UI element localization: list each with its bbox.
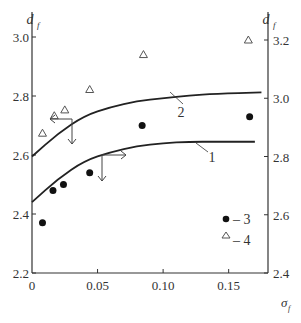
data-point-series-4: [139, 51, 147, 58]
left-y-axis-label-sub: f: [37, 20, 41, 30]
curve-1-label: 1: [209, 150, 216, 165]
left-y-tick-label: 2.2: [13, 266, 29, 281]
data-point-series-3: [49, 187, 56, 194]
curve-1: [32, 142, 255, 202]
legend-label-series-3: – 3: [232, 212, 251, 227]
curve-2: [32, 92, 261, 156]
legend-marker-series-4: [222, 232, 230, 238]
chart: dfdfσf00.050.100.152.22.42.62.83.02.42.6…: [0, 0, 301, 323]
x-axis-label: σ: [281, 295, 288, 310]
data-point-series-3: [39, 219, 46, 226]
legend-marker-series-3: [223, 216, 230, 223]
left-y-tick-label: 2.8: [13, 89, 29, 104]
right-y-axis-label-sub: f: [273, 20, 277, 30]
x-tick-label: 0.15: [217, 278, 240, 293]
data-point-series-4: [38, 129, 46, 136]
left-y-tick-label: 2.6: [13, 148, 30, 163]
data-point-series-4: [244, 36, 252, 43]
data-point-series-3: [246, 113, 253, 120]
right-y-tick-label: 3.2: [273, 33, 289, 48]
right-y-tick-label: 2.8: [273, 150, 289, 165]
legend-label-series-4: – 4: [232, 233, 251, 248]
data-point-series-4: [61, 106, 69, 113]
x-tick-label: 0.05: [86, 278, 109, 293]
left-y-axis-label: d: [27, 12, 35, 27]
left-y-tick-label: 3.0: [13, 30, 29, 45]
curve-1-leader: [196, 143, 208, 152]
data-point-series-3: [139, 122, 146, 129]
curve-2-label: 2: [178, 105, 185, 120]
right-y-tick-label: 2.6: [273, 208, 290, 223]
data-point-series-3: [60, 181, 67, 188]
x-tick-label: 0: [29, 278, 36, 293]
right-y-axis-label: d: [263, 12, 271, 27]
data-point-series-4: [86, 86, 94, 93]
left-y-tick-label: 2.4: [13, 207, 30, 222]
right-y-tick-label: 3.0: [273, 91, 289, 106]
right-y-tick-label: 2.4: [273, 266, 290, 281]
x-axis-label-sub: f: [288, 304, 292, 313]
data-point-series-3: [86, 169, 93, 176]
x-tick-label: 0.10: [152, 278, 175, 293]
